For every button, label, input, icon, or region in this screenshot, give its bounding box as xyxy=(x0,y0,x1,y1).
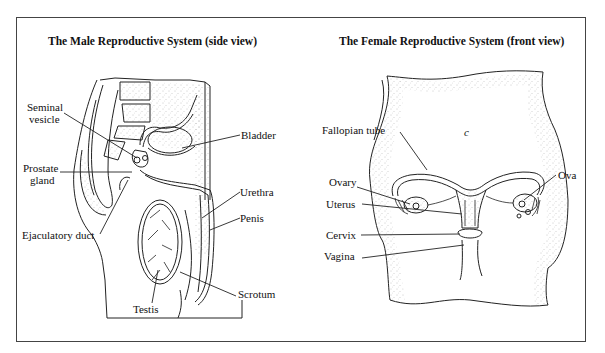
label-ejaculatory-duct: Ejaculatory duct xyxy=(22,229,94,241)
anatomy-illustrations xyxy=(0,0,605,353)
male-diagram xyxy=(74,78,242,318)
label-testis: Testis xyxy=(133,303,159,315)
label-cervix: Cervix xyxy=(326,229,356,241)
label-seminal-vesicle-line1: Seminal xyxy=(27,101,63,113)
female-diagram-title: The Female Reproductive System (front vi… xyxy=(339,35,564,47)
label-uterus: Uterus xyxy=(326,198,355,210)
label-scrotum: Scrotum xyxy=(238,288,275,300)
label-ovary: Ovary xyxy=(329,176,357,188)
label-fallopian-tube: Fallopian tube xyxy=(322,124,385,136)
label-prostate-gland-line1: Prostate xyxy=(23,162,58,174)
label-bladder: Bladder xyxy=(241,129,276,141)
label-urethra: Urethra xyxy=(240,186,274,198)
label-prostate-gland-line2: gland xyxy=(30,174,54,186)
label-ova: Ova xyxy=(558,169,576,181)
label-penis: Penis xyxy=(240,212,264,224)
label-seminal-vesicle-line2: vesicle xyxy=(29,113,60,125)
label-vagina: Vagina xyxy=(324,250,355,262)
male-diagram-title: The Male Reproductive System (side view) xyxy=(48,35,257,47)
navel-mark: c xyxy=(464,126,469,138)
